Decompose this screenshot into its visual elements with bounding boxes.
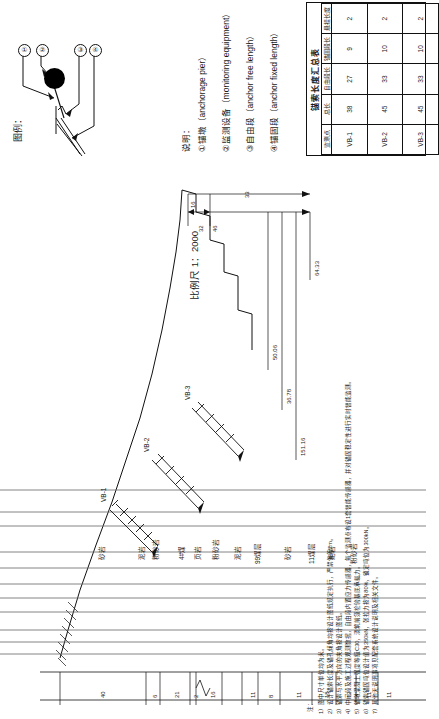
note-item: 6）锚索锚固吨位设计值为350kN，张拉力按为80%，锁定吨位为300kN。 [364, 523, 370, 714]
table-header-row: 监测点 总长 自由段长 锚固段长 悬挂长度 [322, 4, 332, 155]
legend-title: 图例： [14, 115, 23, 142]
note-item: 4）中间段及施工过程观测数据，自由段内置应力传感器，每个监测点布设1套智能传感器… [346, 378, 352, 714]
table-cell: 33 [403, 64, 439, 94]
notes-block: 注： 1）图中尺寸单位均为米。 2）设计锚索长度及锚孔倾角均按设计图纸规定执行，… [306, 600, 424, 718]
bottom-dim: 40 [100, 691, 106, 698]
slope-dim-2: 36.78 [286, 389, 292, 404]
strata-label: 11煤层 [306, 543, 316, 564]
legend-callout-3: ③ [74, 44, 87, 57]
table-col-header-1: 总长 [322, 94, 332, 124]
strata-label: 砂岩 [282, 546, 292, 560]
strata-label: 4#煤 [176, 546, 186, 560]
bottom-dim: 11 [296, 692, 302, 698]
top-dim-1: 16 [190, 201, 196, 208]
anchor-pier-symbol [44, 68, 65, 89]
table-cell: 45 [367, 94, 403, 124]
legend-schematic [6, 6, 128, 156]
slope-dim-1: 50.06 [272, 345, 278, 360]
anchor-label-vb1: VB-1 [100, 488, 107, 502]
top-dim-2: 32 [198, 225, 204, 232]
anchor-label-vb2: VB-2 [143, 438, 150, 452]
explanation-item-1: ①锚墩（anchorage pier） [198, 52, 207, 152]
table-cell: 2 [403, 4, 439, 34]
table-cell: 10 [367, 34, 403, 64]
legend-block: ① ② ③ ④ [6, 6, 128, 152]
table-cell: 10 [403, 34, 439, 64]
strata-label: 砂岩 [96, 546, 106, 560]
explanation-title: 说明： [182, 125, 191, 152]
table-row: VB-1 38 27 9 2 [332, 4, 368, 155]
explanation-block: 说明： ①锚墩（anchorage pier） ②监测设备（monitoring… [176, 4, 302, 154]
strata-label: 粉砂岩 [150, 539, 160, 560]
note-item: 7）其他无说明事项见配套系统设计说明及相关文件。 [373, 573, 379, 714]
anchor-label-vb3: VB-3 [184, 386, 191, 400]
table-row: VB-2 45 33 10 2 [367, 4, 403, 155]
strata-label: 页岩 [192, 546, 202, 560]
strata-label: 99煤层 [252, 543, 262, 564]
table-col-header-2: 自由段长 [322, 64, 332, 94]
bottom-dim: 11 [250, 692, 256, 698]
table-cell: 9 [332, 34, 368, 64]
bottom-dim: 6 [152, 695, 158, 698]
table-cell: 33 [367, 64, 403, 94]
bottom-dim: 2 [193, 695, 199, 698]
table-cell: 27 [332, 64, 368, 94]
table-cell: VB-3 [403, 124, 439, 154]
strata-label: 泥岩 [136, 546, 146, 560]
strata-label: 泥岩 [232, 546, 242, 560]
table-row: VB-3 45 33 10 2 [403, 4, 439, 155]
explanation-item-2: ②监测设备（monitoring equipment） [222, 9, 231, 152]
note-item: 3）锚索与水平方向的夹角按设计图纸。 [337, 609, 343, 714]
top-dim-4: 33 [244, 191, 250, 198]
note-item: 2）设计锚索长度及锚孔倾角均按设计图纸规定执行，严禁偏差2m。 [328, 535, 334, 714]
table-col-header-3: 锚固段长 [322, 34, 332, 64]
strata-label: 粉砂岩 [210, 539, 220, 560]
table-cell: 2 [367, 4, 403, 34]
table-caption: 锚索长度汇总表 [307, 3, 321, 155]
table-cell: 2 [332, 4, 368, 34]
legend-callout-2: ② [36, 44, 49, 57]
bottom-dim: 16 [210, 691, 216, 698]
table-cell: 45 [403, 94, 439, 124]
table-cell: VB-1 [332, 124, 368, 154]
table-col-header-4: 悬挂长度 [322, 4, 332, 34]
explanation-item-3: ③自由段（anchor free length） [246, 31, 255, 152]
note-item: 1）图中尺寸单位均为米。 [319, 645, 325, 714]
table-cell: VB-2 [367, 124, 403, 154]
slope-dim-3: 151.16 [300, 438, 306, 456]
legend-callout-4: ④ [89, 44, 102, 57]
notes-title: 注： [308, 700, 314, 712]
explanation-item-4: ④锚固段（anchor fixed length） [270, 28, 279, 152]
bottom-dim: 21 [174, 691, 180, 698]
anchor-length-table: 锚索长度汇总表 监测点 总长 自由段长 锚固段长 悬挂长度 VB-1 38 27 [306, 2, 426, 156]
bottom-dim: 8 [268, 695, 274, 698]
legend-callout-1: ① [18, 44, 31, 57]
note-item: 5）锚墩混凝土强度等级C30，浇筑前须检验基底承载力。 [355, 563, 361, 714]
top-dim-3: 46 [212, 225, 218, 232]
table-cell: 38 [332, 94, 368, 124]
table-col-header-0: 监测点 [322, 124, 332, 154]
